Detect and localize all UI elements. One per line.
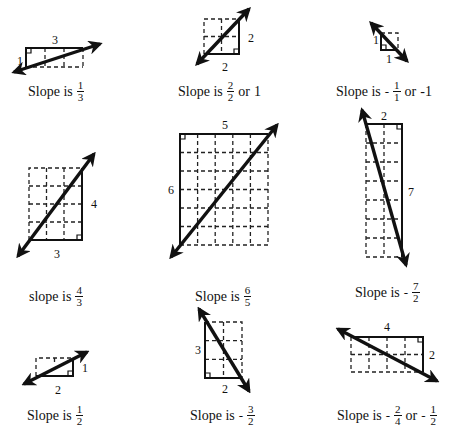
figure-slope-neg-1: 1 1	[371, 23, 407, 66]
alt-fraction: 12	[430, 404, 438, 427]
sign: -	[404, 285, 408, 301]
caption-slope-neg-3-2: Slope is - 32	[190, 404, 255, 427]
rise-label: 1	[82, 361, 88, 375]
figure-slope-neg-7-2: 2 7	[362, 109, 414, 265]
fraction: 72	[412, 281, 420, 304]
rise-label: 4	[91, 197, 97, 211]
caption-slope-neg-7-2: Slope is - 72	[355, 281, 420, 304]
rise-label: 3	[195, 343, 201, 357]
run-label: 1	[386, 52, 392, 66]
caption-prefix: Slope is	[28, 84, 73, 100]
caption-slope-4-3: slope is 43	[29, 285, 83, 308]
or-text: or	[238, 84, 250, 100]
alt-sign: -	[421, 408, 425, 424]
fraction: 43	[75, 285, 83, 308]
sign: -	[239, 408, 243, 424]
run-label: 2	[381, 109, 387, 123]
caption-prefix: Slope is	[190, 408, 235, 424]
alt-value: 1	[254, 84, 261, 100]
caption-slope-1-3: Slope is 13	[28, 80, 84, 103]
caption-prefix: Slope is	[337, 408, 382, 424]
run-label: 3	[54, 247, 60, 261]
caption-prefix: slope is	[29, 289, 71, 305]
fraction: 13	[77, 80, 85, 103]
caption-slope-neg-1: Slope is - 11 or -1	[336, 80, 432, 103]
rise-label: 6	[168, 183, 174, 197]
slope-diagram-sheet: 3 1 2 2 1 1 4 3	[0, 0, 452, 435]
run-label: 2	[222, 382, 228, 396]
slope-figures: 3 1 2 2 1 1 4 3	[0, 0, 452, 435]
caption-prefix: Slope is	[195, 289, 240, 305]
caption-slope-1-2: Slope is 12	[27, 404, 83, 427]
figure-slope-neg-2-4: 4 2	[338, 320, 437, 381]
run-label: 2	[222, 60, 228, 74]
caption-prefix: Slope is	[355, 285, 400, 301]
alt-value: -1	[420, 84, 432, 100]
run-label: 2	[55, 383, 61, 397]
fraction: 24	[394, 404, 402, 427]
figure-slope-4-3: 4 3	[18, 154, 97, 261]
sign: -	[385, 84, 389, 100]
rise-label: 2	[429, 348, 435, 362]
run-label: 4	[384, 320, 390, 334]
figure-slope-neg-3-2: 3 2	[195, 309, 249, 396]
or-text: or	[406, 408, 418, 424]
fraction: 22	[227, 80, 235, 103]
rise-label: 1	[373, 33, 379, 47]
figure-slope-1-2: 1 2	[24, 352, 88, 397]
run-label: 5	[222, 118, 228, 132]
caption-prefix: Slope is	[27, 408, 72, 424]
caption-slope-2-2: Slope is 22 or 1	[178, 80, 261, 103]
fraction: 11	[393, 80, 401, 103]
figure-slope-2-2: 2 2	[197, 9, 254, 74]
run-label: 3	[52, 33, 58, 47]
caption-prefix: Slope is	[336, 84, 381, 100]
caption-slope-6-5: Slope is 65	[195, 285, 251, 308]
rise-label: 7	[408, 185, 414, 199]
caption-slope-neg-2-4: Slope is - 24 or - 12	[337, 404, 437, 427]
fraction: 65	[244, 285, 252, 308]
rise-label: 2	[248, 31, 254, 45]
fraction: 12	[76, 404, 84, 427]
or-text: or	[405, 84, 417, 100]
rise-label: 1	[17, 54, 23, 68]
caption-prefix: Slope is	[178, 84, 223, 100]
sign: -	[386, 408, 390, 424]
figure-slope-6-5: 5 6	[168, 118, 277, 257]
fraction: 32	[247, 404, 255, 427]
figure-slope-1-3: 3 1	[14, 33, 100, 72]
